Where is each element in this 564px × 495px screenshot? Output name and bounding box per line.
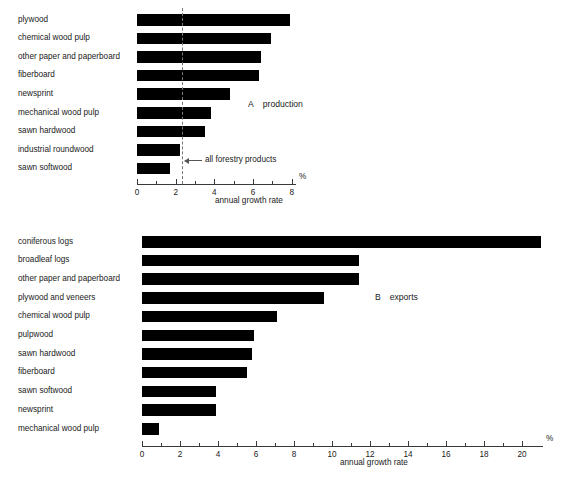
bar bbox=[142, 330, 254, 342]
category-label: sawn hardwood bbox=[18, 126, 124, 136]
category-label: pulpwood bbox=[18, 330, 129, 340]
bar bbox=[137, 14, 290, 26]
chart-panel-exports: coniferous logsbroadleaf logsother paper… bbox=[0, 228, 564, 495]
bar bbox=[137, 163, 170, 175]
x-axis-tick bbox=[176, 179, 177, 184]
category-label: chemical wood pulp bbox=[18, 311, 129, 321]
x-axis-tick bbox=[522, 441, 523, 446]
x-axis-tick bbox=[180, 441, 181, 446]
x-axis-minor-tick bbox=[351, 443, 352, 446]
x-axis-tick bbox=[370, 441, 371, 446]
category-label: newsprint bbox=[18, 405, 129, 415]
category-label: mechanical wood pulp bbox=[18, 424, 129, 434]
x-axis-minor-tick bbox=[195, 181, 196, 184]
category-label: plywood and veneers bbox=[18, 293, 129, 303]
x-axis-tick-label: 0 bbox=[125, 188, 149, 197]
x-axis-tick bbox=[142, 441, 143, 446]
x-axis-tick bbox=[446, 441, 447, 446]
x-axis-tick bbox=[294, 441, 295, 446]
reference-line-all-forestry-products bbox=[182, 8, 183, 184]
bar bbox=[142, 311, 277, 323]
category-label: mechanical wood pulp bbox=[18, 108, 124, 118]
bar bbox=[142, 255, 359, 267]
x-axis-title: annual growth rate bbox=[215, 196, 283, 205]
x-axis-tick-label: 2 bbox=[168, 450, 192, 459]
x-axis-tick-label: 8 bbox=[282, 450, 306, 459]
panel-title: exports bbox=[390, 292, 418, 302]
category-label: newsprint bbox=[18, 89, 124, 99]
bar bbox=[137, 88, 230, 100]
x-axis-minor-tick bbox=[313, 443, 314, 446]
bar bbox=[137, 70, 259, 82]
reference-line-label: all forestry products bbox=[205, 155, 276, 164]
reference-arrow-icon bbox=[185, 160, 202, 161]
x-axis-tick-label: 4 bbox=[206, 450, 230, 459]
x-axis-tick bbox=[256, 441, 257, 446]
bar bbox=[137, 126, 205, 138]
x-axis-line bbox=[137, 184, 296, 185]
bar bbox=[142, 292, 324, 304]
bar bbox=[137, 144, 180, 156]
x-axis-tick bbox=[218, 441, 219, 446]
x-axis-minor-tick bbox=[199, 443, 200, 446]
panel-title: production bbox=[263, 99, 303, 109]
percent-unit-label: % bbox=[299, 172, 306, 181]
x-axis-tick bbox=[408, 441, 409, 446]
bar bbox=[142, 386, 216, 398]
bar bbox=[142, 404, 216, 416]
x-axis-minor-tick bbox=[156, 181, 157, 184]
bar bbox=[142, 236, 541, 248]
category-label: coniferous logs bbox=[18, 237, 129, 247]
x-axis-minor-tick bbox=[465, 443, 466, 446]
x-axis-tick-label: 20 bbox=[510, 450, 534, 459]
x-axis-minor-tick bbox=[272, 181, 273, 184]
x-axis-tick-label: 18 bbox=[472, 450, 496, 459]
category-label: plywood bbox=[18, 15, 124, 25]
category-label: fiberboard bbox=[18, 367, 129, 377]
category-label: sawn softwood bbox=[18, 386, 129, 396]
x-axis-title: annual growth rate bbox=[340, 458, 408, 467]
x-axis-tick bbox=[332, 441, 333, 446]
x-axis-tick bbox=[214, 179, 215, 184]
x-axis-tick-label: 2 bbox=[164, 188, 188, 197]
x-axis-tick-label: 8 bbox=[280, 188, 304, 197]
category-label: sawn hardwood bbox=[18, 349, 129, 359]
x-axis-minor-tick bbox=[234, 181, 235, 184]
bar bbox=[142, 273, 359, 285]
bar bbox=[142, 423, 159, 435]
panel-letter: A bbox=[248, 99, 254, 109]
category-label: chemical wood pulp bbox=[18, 33, 124, 43]
panel-letter: B bbox=[375, 292, 381, 302]
category-label: sawn softwood bbox=[18, 163, 124, 173]
bar bbox=[142, 348, 252, 360]
bar bbox=[142, 367, 247, 379]
x-axis-tick bbox=[484, 441, 485, 446]
x-axis-tick bbox=[292, 179, 293, 184]
x-axis-tick bbox=[253, 179, 254, 184]
category-label: industrial roundwood bbox=[18, 145, 124, 155]
x-axis-minor-tick bbox=[389, 443, 390, 446]
x-axis-tick-label: 0 bbox=[130, 450, 154, 459]
bar bbox=[137, 33, 271, 45]
bar bbox=[137, 107, 211, 119]
panel-tag: Aproduction bbox=[248, 99, 303, 109]
x-axis-tick bbox=[137, 179, 138, 184]
x-axis-tick-label: 6 bbox=[244, 450, 268, 459]
category-label: other paper and paperboard bbox=[18, 52, 124, 62]
x-axis-minor-tick bbox=[503, 443, 504, 446]
category-label: broadleaf logs bbox=[18, 255, 129, 265]
category-label: fiberboard bbox=[18, 70, 124, 80]
x-axis-minor-tick bbox=[161, 443, 162, 446]
percent-unit-label: % bbox=[546, 434, 553, 443]
x-axis-line bbox=[142, 446, 543, 447]
panel-tag: Bexports bbox=[375, 292, 418, 302]
x-axis-minor-tick bbox=[427, 443, 428, 446]
x-axis-minor-tick bbox=[237, 443, 238, 446]
chart-panel-production: plywoodchemical wood pulpother paper and… bbox=[0, 0, 564, 215]
x-axis-tick-label: 16 bbox=[434, 450, 458, 459]
bar bbox=[137, 51, 261, 63]
category-label: other paper and paperboard bbox=[18, 274, 129, 284]
x-axis-minor-tick bbox=[275, 443, 276, 446]
